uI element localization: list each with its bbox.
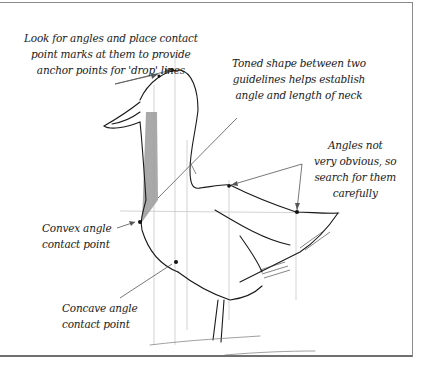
annotation-anchor-points: Look for angles and place contact point … (24, 30, 198, 78)
annotation-convex-angle: Convex angle contact point (42, 220, 111, 252)
annotation-concave-angle: Concave angle contact point (62, 300, 137, 332)
annotation-arrows (115, 70, 302, 298)
duck-outline (104, 70, 338, 355)
shading-hatch (190, 162, 330, 278)
annotation-angles-not-obvious: Angles not very obvious, so search for t… (314, 137, 396, 201)
annotation-toned-shape: Toned shape between two guidelines helps… (232, 55, 366, 103)
